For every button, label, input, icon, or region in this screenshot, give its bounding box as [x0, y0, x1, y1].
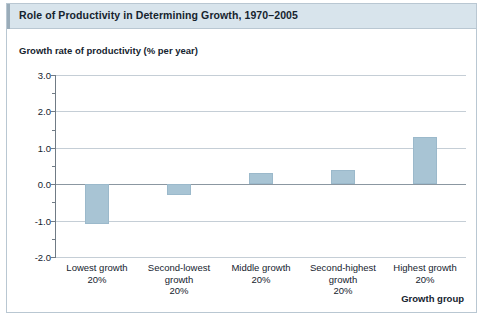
x-axis-category-label: Lowest growth20%	[56, 262, 138, 285]
bar	[413, 137, 437, 184]
y-axis-major-tick	[51, 221, 56, 222]
gridline	[56, 257, 466, 258]
x-axis-category-label-line: Highest growth	[384, 262, 466, 274]
y-axis-major-tick	[51, 111, 56, 112]
x-axis-category-label-line: 20%	[384, 274, 466, 286]
x-axis-category-label-line: 20%	[138, 285, 220, 297]
x-axis-category-label-line: Second-lowest	[138, 262, 220, 274]
y-axis-minor-tick	[52, 166, 56, 167]
y-axis-major-tick	[51, 148, 56, 149]
gridline	[56, 75, 466, 76]
y-axis-tick-label: -1.0	[17, 215, 51, 226]
plot-wrapper: 3.02.01.00.0-1.0-2.0 Lowest growth20%Sec…	[7, 4, 478, 314]
y-axis-tick-label: 0.0	[17, 179, 51, 190]
x-axis-category-label-line: 20%	[302, 285, 384, 297]
x-axis-category-label-line: Lowest growth	[56, 262, 138, 274]
x-axis-category-label: Second-highestgrowth20%	[302, 262, 384, 297]
x-axis-category-label: Middle growth20%	[220, 262, 302, 285]
x-axis-title: Growth group	[401, 293, 464, 304]
gridline	[56, 221, 466, 222]
plot-area	[56, 75, 466, 257]
x-axis-category-label: Second-lowestgrowth20%	[138, 262, 220, 297]
y-axis-major-tick	[51, 75, 56, 76]
gridline	[56, 148, 466, 149]
gridline	[56, 111, 466, 112]
y-axis-tick-label: 2.0	[17, 106, 51, 117]
y-axis-tick-label: 1.0	[17, 142, 51, 153]
y-axis-tick-label: 3.0	[17, 70, 51, 81]
gridline	[56, 184, 466, 185]
y-axis-minor-tick	[52, 93, 56, 94]
x-axis-category-label-line: Second-highest	[302, 262, 384, 274]
x-axis-category-label-line: growth	[138, 274, 220, 286]
bar	[167, 184, 191, 195]
figure-panel: Role of Productivity in Determining Grow…	[6, 3, 477, 313]
bar	[331, 170, 355, 185]
x-axis-category-label: Highest growth20%	[384, 262, 466, 285]
x-axis-category-label-line: 20%	[56, 274, 138, 286]
y-axis-major-tick	[51, 257, 56, 258]
x-axis-category-label-line: 20%	[220, 274, 302, 286]
bar	[249, 173, 273, 184]
y-axis-minor-tick	[52, 202, 56, 203]
y-axis-major-tick	[51, 184, 56, 185]
y-axis-minor-tick	[52, 130, 56, 131]
y-axis-tick-label: -2.0	[17, 252, 51, 263]
y-axis-tick-labels: 3.02.01.00.0-1.0-2.0	[13, 75, 51, 257]
y-axis-minor-tick	[52, 239, 56, 240]
bar	[85, 184, 109, 224]
x-axis-category-label-line: Middle growth	[220, 262, 302, 274]
x-axis-category-label-line: growth	[302, 274, 384, 286]
